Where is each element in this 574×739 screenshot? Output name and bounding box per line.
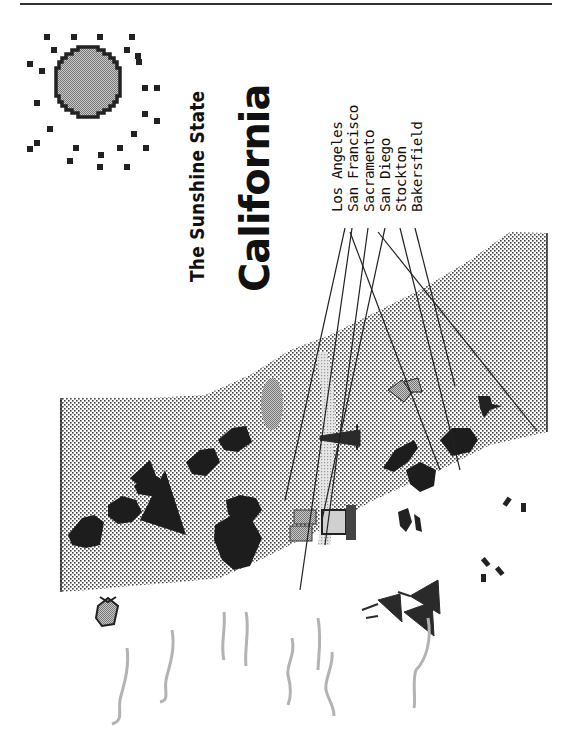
footprints-icon bbox=[481, 497, 526, 582]
buildings-icon bbox=[290, 510, 316, 541]
city-label: Stockton bbox=[394, 146, 409, 212]
city-label: Sacramento bbox=[362, 130, 377, 212]
sun-icon bbox=[27, 34, 160, 170]
city-label: Bakersfield bbox=[410, 121, 425, 212]
city-label: Los Angeles bbox=[330, 121, 345, 212]
california-illustration bbox=[0, 0, 574, 739]
page-title: California bbox=[232, 84, 278, 292]
subtitle: The Sunshine State bbox=[186, 91, 208, 282]
wave-icon bbox=[112, 612, 429, 724]
city-label: San Diego bbox=[378, 138, 393, 212]
computer-icon bbox=[322, 505, 356, 540]
lake-icon bbox=[261, 378, 283, 430]
document-page: The Sunshine State California Los Angele… bbox=[0, 0, 574, 739]
city-label: San Francisco bbox=[346, 105, 361, 212]
fish-icon bbox=[96, 597, 118, 626]
fish-icon-small bbox=[398, 508, 422, 532]
